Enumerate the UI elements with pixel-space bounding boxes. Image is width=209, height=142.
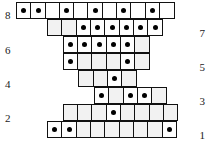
- grid-row-2: [63, 104, 177, 121]
- grid-cell[interactable]: [123, 87, 139, 104]
- grid-cell[interactable]: [159, 2, 175, 19]
- grid-cell[interactable]: [30, 2, 46, 19]
- dot-marker-icon: [36, 8, 41, 13]
- row-label-left-2: 2: [5, 113, 11, 124]
- dot-marker-icon: [111, 110, 116, 115]
- grid-dot-diagram: 86427531: [0, 0, 209, 142]
- grid-cell[interactable]: [106, 104, 122, 121]
- grid-row-3: [94, 87, 165, 104]
- dot-marker-icon: [93, 8, 98, 13]
- grid-cell[interactable]: [91, 36, 107, 53]
- grid-cell[interactable]: [151, 87, 167, 104]
- dot-marker-icon: [110, 25, 115, 30]
- row-label-right-3: 3: [200, 96, 206, 107]
- grid-cell[interactable]: [104, 121, 120, 138]
- grid-cell[interactable]: [61, 121, 77, 138]
- grid-cell[interactable]: [93, 70, 109, 87]
- grid-cell[interactable]: [90, 19, 106, 36]
- grid-cell[interactable]: [76, 19, 92, 36]
- grid-cell[interactable]: [61, 19, 77, 36]
- row-label-left-8: 8: [5, 10, 11, 21]
- grid-row-7: [47, 19, 161, 36]
- dot-marker-icon: [150, 8, 155, 13]
- grid-cell[interactable]: [106, 53, 122, 70]
- grid-cell[interactable]: [77, 36, 93, 53]
- dot-marker-icon: [125, 42, 130, 47]
- grid-cell[interactable]: [145, 2, 161, 19]
- grid-cell[interactable]: [91, 104, 107, 121]
- grid-cell[interactable]: [91, 53, 107, 70]
- row-label-right-1: 1: [200, 130, 206, 141]
- row-label-right-7: 7: [200, 28, 206, 39]
- dot-marker-icon: [128, 93, 133, 98]
- dot-marker-icon: [112, 76, 117, 81]
- grid-row-8: [16, 2, 173, 19]
- grid-cell[interactable]: [147, 121, 163, 138]
- grid-cell[interactable]: [133, 19, 149, 36]
- grid-cell[interactable]: [47, 121, 63, 138]
- grid-cell[interactable]: [147, 19, 163, 36]
- dot-marker-icon: [138, 25, 143, 30]
- grid-cell[interactable]: [134, 53, 150, 70]
- grid-row-5: [63, 53, 149, 70]
- grid-cell[interactable]: [120, 36, 136, 53]
- grid-cell[interactable]: [121, 70, 137, 87]
- grid-cell[interactable]: [90, 121, 106, 138]
- grid-cell[interactable]: [134, 36, 150, 53]
- grid-cell[interactable]: [104, 19, 120, 36]
- grid-cell[interactable]: [102, 2, 118, 19]
- dot-marker-icon: [99, 93, 104, 98]
- grid-cell[interactable]: [137, 87, 153, 104]
- dot-marker-icon: [81, 25, 86, 30]
- grid-cell[interactable]: [76, 121, 92, 138]
- grid-cell[interactable]: [120, 104, 136, 121]
- grid-cell[interactable]: [63, 36, 79, 53]
- dot-marker-icon: [124, 25, 129, 30]
- dot-marker-icon: [142, 93, 147, 98]
- grid-cell[interactable]: [163, 104, 179, 121]
- grid-cell[interactable]: [94, 87, 110, 104]
- row-label-left-4: 4: [5, 79, 11, 90]
- grid-cell[interactable]: [116, 2, 132, 19]
- dot-marker-icon: [125, 59, 130, 64]
- grid-cell[interactable]: [47, 19, 63, 36]
- dot-marker-icon: [64, 8, 69, 13]
- grid-cell[interactable]: [77, 53, 93, 70]
- dot-marker-icon: [67, 127, 72, 132]
- grid-cell[interactable]: [45, 2, 61, 19]
- dot-marker-icon: [21, 8, 26, 13]
- grid-cell[interactable]: [63, 104, 79, 121]
- grid-cell[interactable]: [77, 104, 93, 121]
- grid-cell[interactable]: [107, 70, 123, 87]
- dot-marker-icon: [167, 127, 172, 132]
- grid-cell[interactable]: [119, 121, 135, 138]
- dot-marker-icon: [121, 8, 126, 13]
- grid-cell[interactable]: [108, 87, 124, 104]
- row-label-right-5: 5: [200, 62, 206, 73]
- grid-cell[interactable]: [149, 104, 165, 121]
- dot-marker-icon: [52, 127, 57, 132]
- grid-cell[interactable]: [78, 70, 94, 87]
- grid-cell[interactable]: [162, 121, 178, 138]
- dot-marker-icon: [153, 25, 158, 30]
- grid-row-4: [78, 70, 135, 87]
- grid-row-1: [47, 121, 176, 138]
- grid-row-6: [63, 36, 149, 53]
- grid-cell[interactable]: [63, 53, 79, 70]
- grid-cell[interactable]: [130, 2, 146, 19]
- dot-marker-icon: [111, 42, 116, 47]
- grid-cell[interactable]: [87, 2, 103, 19]
- dot-marker-icon: [97, 42, 102, 47]
- grid-cell[interactable]: [59, 2, 75, 19]
- dot-marker-icon: [68, 42, 73, 47]
- grid-cell[interactable]: [134, 104, 150, 121]
- grid-cell[interactable]: [119, 19, 135, 36]
- dot-marker-icon: [68, 59, 73, 64]
- dot-marker-icon: [82, 42, 87, 47]
- grid-cell[interactable]: [73, 2, 89, 19]
- grid-cell[interactable]: [106, 36, 122, 53]
- grid-cell[interactable]: [120, 53, 136, 70]
- grid-cell[interactable]: [133, 121, 149, 138]
- dot-marker-icon: [95, 25, 100, 30]
- grid-cell[interactable]: [16, 2, 32, 19]
